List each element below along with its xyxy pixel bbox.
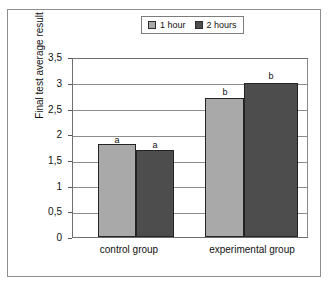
bar-control-group-2-hours (136, 150, 174, 237)
bar-annotation-control-group-1-hour: a (107, 136, 127, 145)
legend-swatch-icon-1-hour (148, 21, 156, 29)
y-axis-title: Final test average result (34, 0, 45, 141)
y-tick-label-1: 1 (28, 182, 62, 192)
x-category-label-control-group: control group (89, 244, 169, 255)
y-tick-label-2-5: 2,5 (28, 105, 62, 115)
legend-entry-1-hour: 1 hour (148, 21, 186, 30)
legend-label-1-hour: 1 hour (160, 21, 186, 30)
y-tick-label-3: 3 (28, 79, 62, 89)
legend-label-2-hours: 2 hours (207, 21, 237, 30)
y-tick-label-0: 0 (28, 233, 62, 243)
y-tick-label-1-5: 1,5 (28, 156, 62, 166)
y-tick-mark-0 (68, 238, 72, 239)
bar-annotation-experimental-group-1-hour: b (215, 88, 235, 97)
bar-annotation-control-group-2-hours: a (145, 141, 165, 150)
y-tick-label-3-5: 3,5 (28, 53, 62, 63)
plot-area: a a b b (72, 58, 308, 238)
y-tick-label-0-5: 0,5 (28, 207, 62, 217)
y-tick-label-2: 2 (28, 130, 62, 140)
legend-entry-2-hours: 2 hours (195, 21, 237, 30)
bar-experimental-group-1-hour (205, 98, 244, 237)
bar-experimental-group-2-hours (244, 83, 298, 237)
bar-annotation-experimental-group-2-hours: b (261, 72, 281, 81)
figure-frame: 1 hour 2 hours Final test average result… (7, 9, 321, 277)
x-category-label-experimental-group: experimental group (194, 244, 310, 255)
bar-control-group-1-hour (98, 144, 136, 237)
legend-swatch-icon-2-hours (195, 21, 203, 29)
chart-legend: 1 hour 2 hours (141, 16, 244, 34)
